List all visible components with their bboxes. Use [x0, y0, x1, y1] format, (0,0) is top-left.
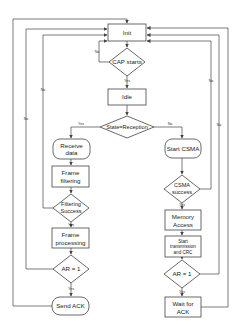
node-idle: Idle [108, 89, 146, 105]
node-init: Init [108, 24, 146, 41]
label-cap-no: No [95, 50, 100, 54]
label-ar-right-no: No [217, 123, 222, 127]
svg-text:Wait for: Wait for [172, 300, 193, 307]
label-ar-right-yes: Yes [179, 290, 185, 294]
svg-text:data: data [65, 149, 78, 156]
label-ar-left-yes: Yes [68, 287, 74, 291]
svg-text:CAP starts: CAP starts [112, 58, 141, 65]
svg-text:filtering: filtering [61, 177, 82, 184]
node-memory-access: Memory Access [165, 210, 201, 230]
label-csma-no: No [209, 79, 214, 83]
svg-text:State=Reception: State=Reception [106, 124, 148, 130]
svg-text:Start: Start [178, 239, 188, 244]
svg-text:Success: Success [60, 208, 81, 214]
label-csma-yes: Yes [179, 203, 185, 207]
node-cap-starts: CAP starts [109, 48, 145, 76]
svg-text:Frame: Frame [62, 231, 80, 238]
edge-state-no [154, 127, 182, 138]
node-csma-success: CSMA success [164, 175, 200, 203]
node-filtering-success: Filtering Success [53, 194, 89, 222]
node-start-csma: Start CSMA [165, 139, 201, 158]
svg-text:Frame: Frame [62, 169, 80, 176]
svg-text:Send ACK: Send ACK [56, 302, 85, 309]
svg-text:Idle: Idle [122, 93, 133, 100]
node-wait-ack: Wait for ACK [165, 297, 201, 317]
node-ar-left: AR = 1 [53, 255, 89, 283]
svg-text:Start CSMA: Start CSMA [167, 145, 201, 152]
svg-text:Access: Access [173, 221, 193, 228]
svg-text:Receive: Receive [60, 142, 83, 149]
svg-text:and CRC: and CRC [174, 250, 194, 255]
label-state-yes: Yes [78, 122, 84, 126]
node-send-ack: Send ACK [52, 297, 89, 315]
svg-text:Memory: Memory [172, 213, 195, 220]
node-frame-filtering: Frame filtering [52, 166, 89, 187]
node-frame-processing: Frame processing [52, 228, 89, 248]
svg-text:ACK: ACK [177, 308, 191, 315]
edge-state-yes [71, 127, 100, 138]
label-filter-yes: Yes [68, 223, 74, 227]
node-state-reception: State=Reception [100, 116, 154, 138]
label-cap-yes: Yes [124, 79, 130, 83]
node-start-transmission: Start transmission and CRC [165, 236, 201, 257]
svg-text:AR = 1: AR = 1 [172, 270, 192, 277]
svg-text:CSMA: CSMA [174, 182, 190, 188]
label-filter-no: No [41, 88, 46, 92]
edge-csma-no [147, 41, 211, 189]
svg-text:success: success [172, 189, 192, 195]
node-receive-data: Receive data [53, 139, 90, 159]
label-ar-left-no: No [24, 117, 29, 121]
label-state-no: No [168, 122, 173, 126]
svg-text:Filtering: Filtering [61, 201, 81, 207]
flowchart: No Yes Yes No No Yes No Yes No Yes No Ye… [0, 0, 243, 335]
node-ar-right: AR = 1 [164, 260, 200, 288]
svg-text:transmission: transmission [170, 244, 196, 249]
svg-text:AR = 1: AR = 1 [61, 265, 81, 272]
svg-text:processing: processing [56, 239, 86, 246]
edge-cap-no [99, 41, 110, 62]
svg-text:Init: Init [123, 29, 132, 36]
